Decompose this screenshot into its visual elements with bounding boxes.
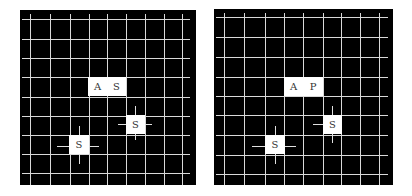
grid-line-vertical (341, 13, 342, 185)
grid-line-horizontal (216, 174, 388, 175)
grid-line-vertical (323, 13, 324, 185)
grid-line-horizontal (216, 37, 388, 38)
grid-line-horizontal (22, 135, 190, 136)
grid-line-horizontal (216, 135, 388, 136)
letter-tile-s: S (107, 77, 126, 96)
grid-line-horizontal (216, 17, 388, 18)
letter-tile-s: S (69, 135, 89, 154)
grid-line-vertical (303, 13, 304, 185)
grid-line-vertical (224, 13, 225, 185)
grid-line-vertical (265, 13, 266, 185)
grid-panel-left: ASSS (20, 10, 196, 185)
grid-line-horizontal (22, 154, 190, 155)
grid-line-vertical (284, 13, 285, 185)
letter-tile-s: S (126, 115, 145, 134)
grid-line-horizontal (216, 115, 388, 116)
grid-line-horizontal (22, 173, 190, 174)
grid-line-vertical (244, 13, 245, 185)
grid-line-horizontal (22, 19, 190, 20)
letter-tile-p: P (303, 77, 323, 96)
letter-tile-a: A (88, 77, 107, 96)
grid-line-horizontal (22, 39, 190, 40)
grid-line-horizontal (216, 155, 388, 156)
letter-tile-s: S (265, 135, 285, 154)
grid-line-horizontal (22, 58, 190, 59)
grid-line-horizontal (22, 97, 190, 98)
grid-line-horizontal (216, 57, 388, 58)
letter-tile-s: S (323, 115, 342, 134)
grid-panel-right: APSS (214, 9, 393, 185)
grid-line-vertical (360, 13, 361, 185)
grid-line-horizontal (216, 96, 388, 97)
grid-line-vertical (379, 13, 380, 185)
letter-tile-a: A (284, 77, 303, 96)
grid-line-horizontal (22, 116, 190, 117)
